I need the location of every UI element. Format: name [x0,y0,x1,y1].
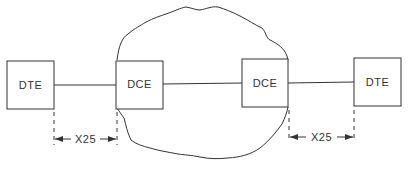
node-label: DCE [253,77,278,89]
node-dce-left: DCE [116,61,163,109]
link-dce-dte-right [288,82,354,83]
interface-label: X25 [75,133,96,145]
node-dte-left: DTE [7,61,54,109]
node-label: DCE [127,78,152,90]
x25-network-diagram: DTE DCE DCE DTE X25 X25 [0,0,409,170]
interface-x25-right: X25 [289,110,354,143]
node-label: DTE [19,79,43,91]
node-dte-right: DTE [354,58,401,106]
node-dce-right: DCE [242,59,288,107]
interface-label: X25 [311,131,332,143]
node-label: DTE [366,76,390,88]
link-dce-dce [163,83,242,84]
interface-x25-left: X25 [54,112,117,145]
